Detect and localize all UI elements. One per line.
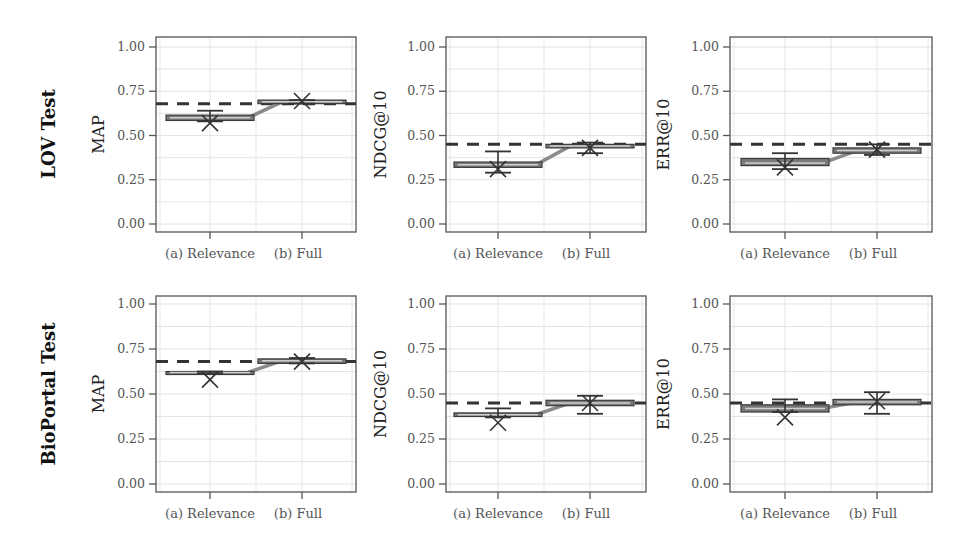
y-tick-label: 0.25: [117, 172, 145, 187]
y-axis-label: MAP: [89, 115, 108, 154]
y-tick-label: 0.75: [117, 341, 145, 356]
panel-bioportal-map: 0.000.250.500.751.00MAP(a) Relevance(b) …: [89, 296, 356, 521]
y-tick-label: 0.00: [117, 216, 145, 231]
y-tick-label: 1.00: [117, 296, 145, 311]
x-category-label: (a) Relevance: [740, 506, 830, 521]
x-category-label: (b) Full: [849, 246, 897, 261]
x-category-label: (b) Full: [562, 246, 610, 261]
y-tick-label: 1.00: [691, 39, 719, 54]
x-category-label: (a) Relevance: [740, 246, 830, 261]
y-tick-label: 1.00: [691, 296, 719, 311]
y-tick-label: 0.50: [117, 128, 145, 143]
panel-lov-map: 0.000.250.500.751.00MAP(a) Relevance(b) …: [89, 37, 356, 261]
y-tick-label: 0.00: [691, 216, 719, 231]
x-category-label: (a) Relevance: [165, 506, 255, 521]
y-axis-label: ERR@10: [654, 98, 673, 170]
y-tick-label: 0.50: [407, 386, 435, 401]
y-axis-label: ERR@10: [654, 358, 673, 430]
y-tick-label: 0.75: [117, 83, 145, 98]
y-tick-label: 0.25: [691, 172, 719, 187]
y-tick-label: 0.50: [691, 128, 719, 143]
x-category-label: (a) Relevance: [165, 246, 255, 261]
y-axis-label: NDCG@10: [371, 350, 390, 438]
y-tick-label: 0.75: [691, 83, 719, 98]
x-category-label: (a) Relevance: [453, 506, 543, 521]
y-axis-label: MAP: [89, 374, 108, 413]
y-tick-label: 0.00: [117, 476, 145, 491]
plot-frame: [446, 37, 646, 232]
row-label: LOV Test: [38, 89, 59, 179]
y-tick-label: 0.50: [691, 386, 719, 401]
y-tick-label: 1.00: [117, 39, 145, 54]
x-category-label: (b) Full: [274, 246, 322, 261]
panel-bioportal-err10: 0.000.250.500.751.00ERR@10(a) Relevance(…: [654, 296, 932, 521]
row-labels: LOV TestBioPortal Test: [38, 89, 59, 466]
x-category-label: (b) Full: [274, 506, 322, 521]
y-tick-label: 0.25: [691, 431, 719, 446]
panel-lov-ndcg10: 0.000.250.500.751.00NDCG@10(a) Relevance…: [371, 37, 646, 261]
panel-bioportal-ndcg10: 0.000.250.500.751.00NDCG@10(a) Relevance…: [371, 296, 646, 521]
y-tick-label: 0.00: [691, 476, 719, 491]
x-category-label: (b) Full: [562, 506, 610, 521]
panel-lov-err10: 0.000.250.500.751.00ERR@10(a) Relevance(…: [654, 37, 932, 261]
panels: 0.000.250.500.751.00MAP(a) Relevance(b) …: [89, 37, 932, 521]
y-tick-label: 0.50: [407, 128, 435, 143]
y-tick-label: 0.25: [407, 172, 435, 187]
x-category-label: (b) Full: [849, 506, 897, 521]
y-tick-label: 0.75: [691, 341, 719, 356]
y-tick-label: 1.00: [407, 39, 435, 54]
y-axis-label: NDCG@10: [371, 90, 390, 178]
y-tick-label: 0.00: [407, 216, 435, 231]
y-tick-label: 0.50: [117, 386, 145, 401]
y-tick-label: 0.25: [407, 431, 435, 446]
row-label: BioPortal Test: [38, 322, 59, 466]
y-tick-label: 0.00: [407, 476, 435, 491]
x-category-label: (a) Relevance: [453, 246, 543, 261]
y-tick-label: 0.25: [117, 431, 145, 446]
figure-box-plot-grid: LOV TestBioPortal Test 0.000.250.500.751…: [0, 0, 976, 550]
y-tick-label: 0.75: [407, 83, 435, 98]
y-tick-label: 1.00: [407, 296, 435, 311]
y-tick-label: 0.75: [407, 341, 435, 356]
